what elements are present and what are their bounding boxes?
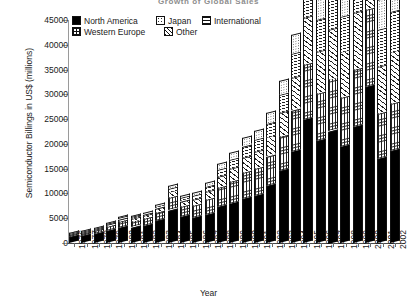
- bar-segment: [229, 166, 239, 181]
- bar-stack: [377, 20, 387, 243]
- bar-segment: [217, 185, 227, 207]
- bar-stack: [291, 20, 301, 243]
- bar-segment: [242, 144, 252, 157]
- bar-stack: [254, 20, 264, 243]
- bar-segment: [340, 50, 350, 98]
- bar-stack: [229, 20, 239, 243]
- bar-segment: [229, 201, 239, 243]
- bar-segment: [316, 92, 326, 142]
- bar-segment: [279, 169, 289, 243]
- bar-segment: [390, 149, 400, 243]
- x-tick-mark: [272, 243, 273, 247]
- y-tick-label: 0: [8, 239, 68, 247]
- bar-stack: [217, 20, 227, 243]
- bar-segment: [266, 121, 276, 137]
- bar-segment: [242, 155, 252, 173]
- bar-segment: [353, 10, 363, 70]
- x-axis-label: Year: [0, 288, 417, 298]
- bar-segment: [217, 205, 227, 243]
- bar-stack: [69, 20, 79, 243]
- bar-segment: [229, 179, 239, 203]
- y-tick-label: 15000: [8, 165, 68, 173]
- bar-segment: [303, 62, 313, 119]
- x-tick-mark: [210, 243, 211, 247]
- bar-segment: [242, 196, 252, 243]
- bar-stack: [279, 20, 289, 243]
- y-tick-label: 45000: [8, 16, 68, 24]
- x-tick-mark: [296, 243, 297, 247]
- bar-stack: [316, 20, 326, 243]
- bar-segment: [365, 84, 375, 243]
- bar-stack: [81, 20, 91, 243]
- bar-segment: [279, 78, 289, 95]
- bar-segment: [316, 139, 326, 243]
- bar-segment: [316, 0, 326, 20]
- bar-segment: [340, 144, 350, 243]
- bar-segment: [390, 9, 400, 52]
- bar-segment: [266, 154, 276, 186]
- bar-stack: [168, 20, 178, 243]
- bar-segment: [254, 150, 264, 169]
- bar-segment: [291, 52, 301, 79]
- x-tick-mark: [222, 243, 223, 247]
- bar-segment: [316, 50, 326, 95]
- bar-segment: [377, 65, 387, 115]
- bar-segment: [192, 216, 202, 243]
- bar-segment: [303, 15, 313, 65]
- bar-segment: [377, 27, 387, 67]
- x-tick-mark: [358, 243, 359, 247]
- bar-segment: [279, 93, 289, 113]
- bar-segment: [303, 117, 313, 243]
- bar-segment: [279, 135, 289, 171]
- x-tick-mark: [74, 243, 75, 247]
- bar-segment: [242, 171, 252, 199]
- bar-segment: [118, 226, 128, 243]
- bar-segment: [143, 224, 153, 243]
- bar-segment: [390, 50, 400, 105]
- x-tick-mark: [124, 243, 125, 247]
- bar-stack: [353, 20, 363, 243]
- bar-segment: [168, 208, 178, 243]
- x-tick-mark: [148, 243, 149, 247]
- x-tick-mark: [185, 243, 186, 247]
- bar-stack: [94, 20, 104, 243]
- bar-segment: [377, 112, 387, 159]
- bar-stack: [155, 20, 165, 243]
- bar-segment: [328, 0, 338, 30]
- bar-stack: [143, 20, 153, 243]
- bar-segment: [266, 135, 276, 157]
- bar-segment: [279, 111, 289, 138]
- y-tick-label: 25000: [8, 115, 68, 123]
- y-tick-label: 40000: [8, 41, 68, 49]
- x-tick-mark: [111, 243, 112, 247]
- y-tick-label: 30000: [8, 90, 68, 98]
- bar-stack: [266, 20, 276, 243]
- bar-segment: [340, 0, 350, 17]
- bar-segment: [180, 215, 190, 243]
- bar-stack: [390, 20, 400, 243]
- y-tick-label: 20000: [8, 140, 68, 148]
- bar-segment: [254, 167, 264, 196]
- bar-segment: [291, 108, 301, 151]
- plot-area: [68, 20, 401, 243]
- bar-segment: [291, 76, 301, 111]
- bar-stack: [303, 20, 313, 243]
- bar-segment: [328, 129, 338, 243]
- bar-stack: [192, 20, 202, 243]
- y-tick-label: 35000: [8, 66, 68, 74]
- x-tick-mark: [247, 243, 248, 247]
- bar-segment: [353, 67, 363, 127]
- x-tick-mark: [161, 243, 162, 247]
- x-tick-mark: [136, 243, 137, 247]
- bar-stack: [118, 20, 128, 243]
- bar-stack: [328, 20, 338, 243]
- bar-stack: [180, 20, 190, 243]
- bar-segment: [155, 219, 165, 243]
- bar-segment: [291, 32, 301, 54]
- x-tick-mark: [346, 243, 347, 247]
- y-tick-label: 10000: [8, 189, 68, 197]
- bar-segment: [328, 27, 338, 79]
- bar-segment: [254, 193, 264, 243]
- x-tick-mark: [259, 243, 260, 247]
- chart-container: Growth of Global Sales Semiconductor Bil…: [0, 0, 417, 305]
